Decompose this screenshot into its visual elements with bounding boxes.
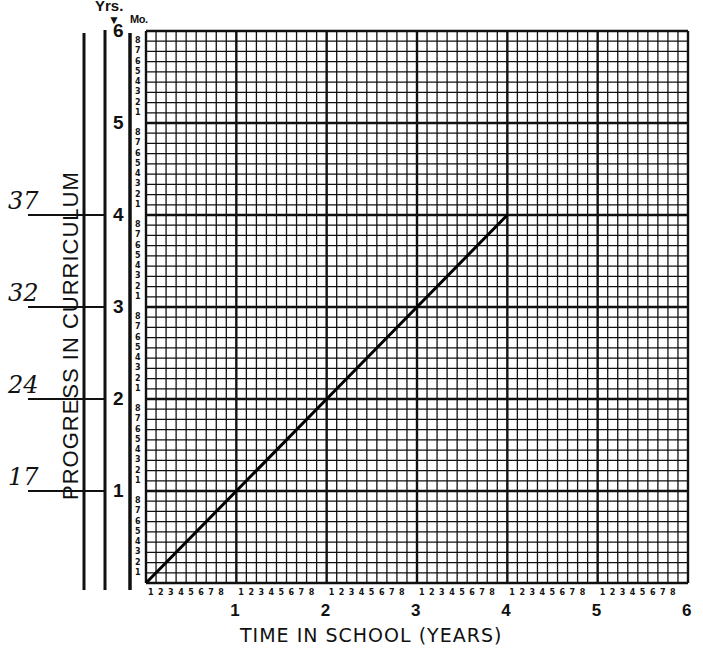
x-month-tick: 3 <box>258 588 264 597</box>
y-year-tick: 5 <box>113 112 124 134</box>
x-month-tick: 2 <box>429 588 435 597</box>
x-month-tick: 5 <box>550 588 556 597</box>
y-month-tick: 7 <box>135 322 141 331</box>
x-month-tick: 7 <box>299 588 305 597</box>
x-month-tick: 2 <box>519 588 525 597</box>
handwritten-annotation: 32 <box>8 279 39 307</box>
y-month-tick: 3 <box>135 87 141 96</box>
y-month-tick: 5 <box>135 527 141 536</box>
x-month-tick: 2 <box>158 588 164 597</box>
x-month-tick: 6 <box>469 588 475 597</box>
x-month-tick: 3 <box>349 588 355 597</box>
x-month-tick: 8 <box>218 588 224 597</box>
x-month-tick: 4 <box>359 588 365 597</box>
y-month-tick: 6 <box>135 333 141 342</box>
x-month-tick: 7 <box>389 588 395 597</box>
x-month-tick: 5 <box>640 588 646 597</box>
x-month-tick: 7 <box>208 588 214 597</box>
x-month-tick: 5 <box>369 588 375 597</box>
x-month-tick: 8 <box>580 588 586 597</box>
handwritten-annotation: 24 <box>8 371 39 399</box>
y-month-tick: 1 <box>135 384 141 393</box>
x-month-tick: 6 <box>650 588 656 597</box>
y-month-tick: 8 <box>135 496 141 505</box>
y-month-tick: 3 <box>135 271 141 280</box>
y-month-tick: 8 <box>135 220 141 229</box>
y-month-tick: 3 <box>135 455 141 464</box>
y-month-tick: 4 <box>135 445 141 454</box>
x-month-tick: 1 <box>419 588 425 597</box>
y-month-tick: 5 <box>135 159 141 168</box>
x-month-tick: 3 <box>620 588 626 597</box>
y-month-tick: 5 <box>135 251 141 260</box>
handwritten-annotation: 37 <box>8 187 39 215</box>
y-month-tick: 6 <box>135 241 141 250</box>
y-year-tick: 2 <box>113 388 124 410</box>
x-month-tick: 6 <box>379 588 385 597</box>
x-month-tick: 5 <box>279 588 285 597</box>
x-month-tick: 5 <box>188 588 194 597</box>
y-month-tick: 4 <box>135 353 141 362</box>
x-month-tick: 3 <box>439 588 445 597</box>
y-month-tick: 1 <box>135 476 141 485</box>
x-month-tick: 3 <box>529 588 535 597</box>
x-month-tick: 1 <box>509 588 515 597</box>
y-month-tick: 7 <box>135 46 141 55</box>
y-month-tick: 4 <box>135 537 141 546</box>
months-unit-label: Mo. <box>130 13 147 25</box>
x-month-tick: 7 <box>660 588 666 597</box>
y-year-tick: 1 <box>113 480 124 502</box>
y-month-tick: 5 <box>135 343 141 352</box>
y-month-tick: 7 <box>135 138 141 147</box>
y-month-tick: 4 <box>135 77 141 86</box>
y-month-tick: 3 <box>135 363 141 372</box>
x-year-tick: 5 <box>592 601 601 621</box>
y-month-tick: 6 <box>135 517 141 526</box>
x-month-tick: 7 <box>570 588 576 597</box>
x-month-tick: 2 <box>610 588 616 597</box>
years-unit-label: Yrs. <box>95 0 123 14</box>
x-month-tick: 1 <box>329 588 335 597</box>
y-month-tick: 2 <box>135 98 141 107</box>
x-month-tick: 2 <box>339 588 345 597</box>
y-axis-label: PROGRESS IN CURRICULUM <box>58 171 84 500</box>
y-year-tick: 6 <box>113 20 124 42</box>
y-month-tick: 2 <box>135 190 141 199</box>
y-month-tick: 7 <box>135 230 141 239</box>
x-year-tick: 3 <box>411 601 420 621</box>
y-month-tick: 2 <box>135 466 141 475</box>
x-month-tick: 4 <box>268 588 274 597</box>
x-month-tick: 1 <box>238 588 244 597</box>
x-month-tick: 4 <box>630 588 636 597</box>
y-month-tick: 4 <box>135 169 141 178</box>
y-month-tick: 8 <box>135 404 141 413</box>
handwritten-annotation: 17 <box>8 463 39 491</box>
x-month-tick: 7 <box>479 588 485 597</box>
y-month-tick: 7 <box>135 506 141 515</box>
y-month-tick: 8 <box>135 312 141 321</box>
y-month-tick: 2 <box>135 374 141 383</box>
x-month-tick: 2 <box>248 588 254 597</box>
x-month-tick: 4 <box>178 588 184 597</box>
x-year-tick: 2 <box>321 601 330 621</box>
y-month-tick: 6 <box>135 425 141 434</box>
y-year-tick: 4 <box>113 204 124 226</box>
x-month-tick: 5 <box>459 588 465 597</box>
x-month-tick: 4 <box>449 588 455 597</box>
y-month-tick: 4 <box>135 261 141 270</box>
y-month-tick: 6 <box>135 57 141 66</box>
x-month-tick: 8 <box>309 588 315 597</box>
x-year-tick: 4 <box>501 601 510 621</box>
y-month-tick: 8 <box>135 36 141 45</box>
x-month-tick: 6 <box>198 588 204 597</box>
y-month-tick: 6 <box>135 149 141 158</box>
x-axis-label: TIME IN SCHOOL (YEARS) <box>240 624 502 646</box>
chart-canvas <box>0 0 703 654</box>
y-month-tick: 1 <box>135 108 141 117</box>
y-month-tick: 8 <box>135 128 141 137</box>
x-year-tick: 6 <box>682 601 691 621</box>
y-month-tick: 7 <box>135 414 141 423</box>
x-month-tick: 6 <box>560 588 566 597</box>
y-month-tick: 3 <box>135 547 141 556</box>
x-month-tick: 3 <box>168 588 174 597</box>
